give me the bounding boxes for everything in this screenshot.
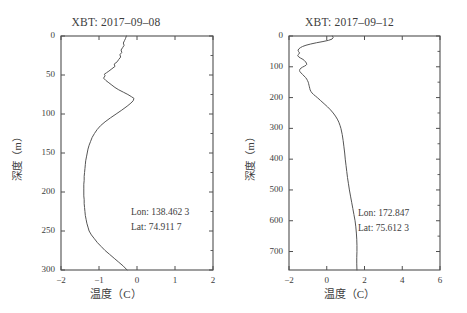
x-axis-tick-label: −2	[269, 275, 309, 285]
y-axis-tick-label: 100	[243, 61, 283, 71]
x-axis-title: 温度（C）	[232, 285, 467, 301]
x-axis-tick-label: 0	[307, 275, 347, 285]
x-axis-tick-label: −2	[41, 275, 81, 285]
temperature-profile-line	[84, 36, 134, 270]
y-axis-tick-label: 200	[15, 186, 55, 196]
x-axis-tick-label: 4	[382, 275, 422, 285]
latitude-label: Lat: 74.911 7	[131, 220, 189, 235]
x-axis-tick-label: 1	[155, 275, 195, 285]
panel-xbt-2017-09-08: XBT: 2017–09–08 温度（C） 深度（m） Lon: 138.462…	[0, 0, 232, 313]
x-axis-tick-label: 6	[420, 275, 460, 285]
longitude-label: Lon: 138.462 3	[131, 205, 189, 220]
temperature-profile-line	[298, 36, 357, 270]
y-axis-tick-label: 0	[15, 30, 55, 40]
y-axis-tick-label: 700	[243, 246, 283, 256]
y-axis-tick-label: 300	[243, 122, 283, 132]
latitude-label: Lat: 75.612 3	[358, 221, 409, 236]
y-axis-tick-label: 500	[243, 184, 283, 194]
y-axis-tick-label: 50	[15, 69, 55, 79]
x-axis-tick-label: 0	[117, 275, 157, 285]
x-axis-tick-label: 2	[345, 275, 385, 285]
y-axis-tick-label: 200	[243, 92, 283, 102]
y-axis-tick-label: 250	[15, 225, 55, 235]
y-axis-tick-label: 0	[243, 30, 283, 40]
y-axis-tick-label: 150	[15, 147, 55, 157]
xbt-profile-figure: XBT: 2017–09–08 温度（C） 深度（m） Lon: 138.462…	[0, 0, 467, 313]
longitude-label: Lon: 172.847	[358, 206, 409, 221]
x-axis-title: 温度（C）	[0, 285, 232, 301]
y-axis-tick-label: 400	[243, 153, 283, 163]
station-coordinates: Lon: 138.462 3 Lat: 74.911 7	[131, 205, 189, 235]
y-axis-tick-label: 100	[15, 108, 55, 118]
x-axis-tick-label: −1	[79, 275, 119, 285]
station-coordinates: Lon: 172.847 Lat: 75.612 3	[358, 206, 409, 236]
y-axis-tick-label: 300	[15, 264, 55, 274]
x-axis-tick-label: 2	[193, 275, 233, 285]
panel-xbt-2017-09-12: XBT: 2017–09–12 温度（C） 深度（m） Lon: 172.847…	[232, 0, 467, 313]
y-axis-tick-label: 600	[243, 215, 283, 225]
